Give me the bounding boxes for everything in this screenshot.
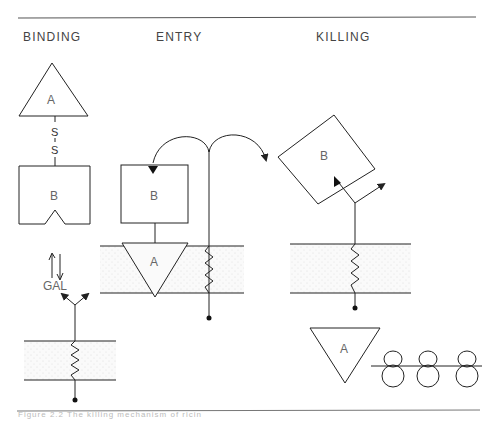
membrane-binding (24, 341, 116, 380)
chain-a-triangle (19, 63, 88, 116)
top-rule (18, 17, 476, 18)
curved-arrow-left (153, 137, 209, 163)
galactose-label: GAL (43, 279, 67, 293)
stage-label-killing: KILLING (316, 30, 370, 44)
killing-panel: B A (278, 115, 482, 387)
chain-b-label-entry: B (150, 189, 158, 203)
anchor-dot-entry (207, 316, 212, 321)
entry-panel: B A (100, 135, 266, 321)
membrane-killing (290, 244, 411, 293)
chain-a-label-killing: A (340, 342, 348, 356)
binding-panel: A S S B GAL (19, 63, 116, 403)
equilibrium-arrows-icon (49, 253, 63, 280)
ribosome-icon (417, 351, 439, 387)
chain-b-label: B (50, 189, 58, 203)
ribosome-icon (382, 351, 404, 387)
anchor-dot-killing (353, 306, 358, 311)
ribosome-icon (456, 351, 478, 387)
anchor-dot (73, 398, 78, 403)
disulfide-s1: S (51, 126, 58, 138)
chain-b-label-killing: B (320, 149, 328, 163)
stage-label-binding: BINDING (23, 30, 81, 44)
ricin-mechanism-diagram: BINDING ENTRY KILLING A S S B GAL (0, 0, 496, 421)
disulfide-s2: S (51, 144, 58, 156)
chain-a-label-entry: A (150, 255, 158, 269)
chain-a-label: A (47, 93, 55, 107)
figure-caption: Figure 2.2 The killing mechanism of rici… (18, 410, 202, 419)
stage-label-entry: ENTRY (156, 30, 202, 44)
curved-arrow-right (209, 135, 266, 160)
